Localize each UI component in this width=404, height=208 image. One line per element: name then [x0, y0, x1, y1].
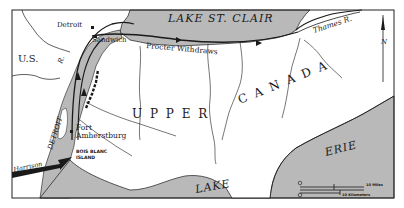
- label-us: U.S.: [18, 53, 38, 64]
- label-detroit-city: Detroit: [57, 21, 82, 29]
- fort-amherstburg-marker: [70, 130, 73, 133]
- label-lake-st-clair: LAKE ST. CLAIR: [167, 12, 274, 25]
- detroit-fort-marker: [91, 26, 94, 29]
- label-island: ISLAND: [76, 155, 95, 160]
- map-container: 10 Miles 10 Kilometers N LAKE ST. CLAIR …: [0, 0, 404, 208]
- label-amherstburg: Amherstburg: [75, 131, 126, 140]
- scale-km-label: 10 Kilometers: [342, 193, 370, 197]
- label-sandwich: Sandwich: [92, 36, 127, 44]
- north-label: N: [380, 38, 388, 46]
- map-canvas: 10 Miles 10 Kilometers N LAKE ST. CLAIR …: [0, 0, 404, 208]
- scale-miles-label: 10 Miles: [366, 183, 383, 187]
- label-upper: U P P E R: [132, 107, 209, 121]
- label-bois-blanc: BOIS BLANC: [76, 149, 108, 154]
